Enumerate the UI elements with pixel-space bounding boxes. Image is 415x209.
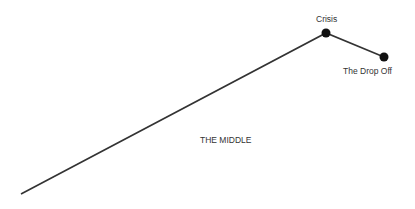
crisis-dot xyxy=(322,29,331,38)
diagram-canvas xyxy=(0,0,415,209)
crisis-label: Crisis xyxy=(316,14,337,24)
middle-label: THE MIDDLE xyxy=(200,135,251,145)
drop-off-dot xyxy=(380,53,389,62)
story-arc-line xyxy=(21,33,384,194)
drop-off-label: The Drop Off xyxy=(343,66,392,76)
